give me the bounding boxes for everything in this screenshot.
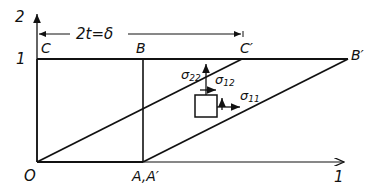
sigma22-label: σ22 — [181, 67, 201, 83]
shear-deformation-diagram: 2 1 1 2t=δ C B C′ B′ O A,A′ σ22 σ12 σ11 — [0, 0, 387, 194]
sigma11-label: σ11 — [240, 88, 260, 104]
original-square — [37, 59, 143, 162]
axis-1-label: 1 — [334, 168, 344, 186]
point-c-prime-label: C′ — [240, 40, 254, 56]
axis-2-label: 2 — [15, 8, 25, 26]
point-o-label: O — [24, 167, 36, 185]
point-b-label: B — [136, 40, 146, 56]
sigma12-label: σ12 — [215, 72, 235, 88]
point-b-prime-label: B′ — [351, 47, 365, 63]
dimension-label: 2t=δ — [76, 25, 113, 43]
y-tick-1-label: 1 — [16, 50, 26, 68]
point-c-label: C — [41, 40, 51, 56]
dimension-arrow — [39, 31, 243, 37]
point-a-label: A,A′ — [131, 168, 160, 184]
